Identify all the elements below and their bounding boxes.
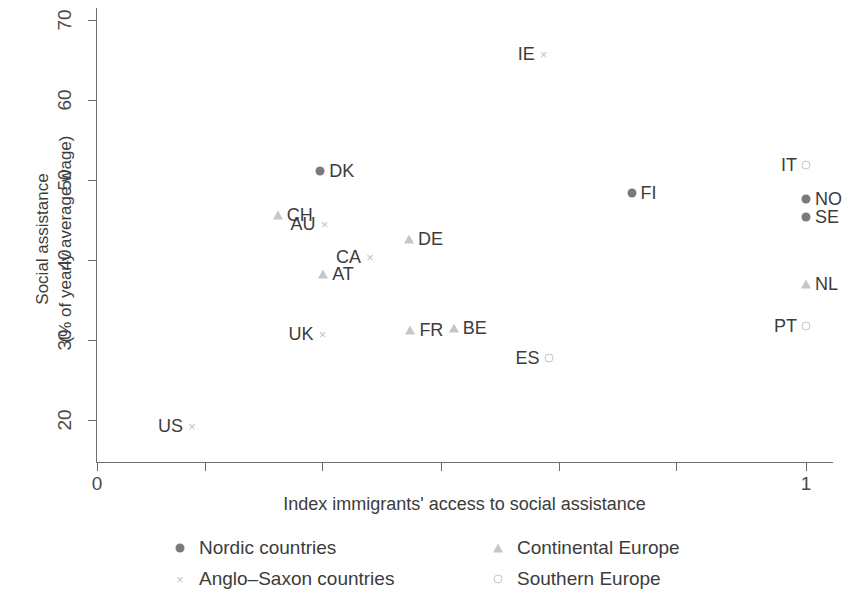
data-point-label: DK bbox=[329, 162, 354, 180]
legend-item[interactable]: ×Anglo–Saxon countries bbox=[172, 563, 394, 594]
y-tick bbox=[88, 180, 96, 181]
x-tick-minor bbox=[322, 463, 323, 471]
triangle-marker-icon bbox=[318, 270, 328, 279]
x-tick-minor bbox=[205, 463, 206, 471]
cross-marker-icon: × bbox=[317, 329, 328, 340]
cross-marker-icon: × bbox=[364, 251, 375, 262]
data-point-label: DE bbox=[418, 230, 443, 248]
triangle-marker-icon bbox=[449, 324, 459, 333]
legend-swatch: × bbox=[172, 571, 188, 587]
legend-item[interactable]: Continental Europe bbox=[490, 532, 680, 563]
y-axis-title-line2: (% of yearly average wage) bbox=[54, 19, 77, 459]
legend-item[interactable]: Southern Europe bbox=[490, 563, 661, 594]
x-tick bbox=[97, 463, 98, 471]
filled-circle-marker-icon bbox=[316, 167, 325, 176]
data-point-label: PT bbox=[774, 317, 797, 335]
legend-label: Anglo–Saxon countries bbox=[199, 568, 394, 590]
triangle-marker-icon bbox=[273, 211, 283, 220]
cross-marker-icon: × bbox=[187, 421, 198, 432]
data-point-label: FI bbox=[641, 184, 657, 202]
legend-swatch bbox=[490, 540, 506, 556]
legend-item[interactable]: Nordic countries bbox=[172, 532, 336, 563]
cross-marker-icon: × bbox=[319, 219, 330, 230]
legend-label: Nordic countries bbox=[199, 537, 336, 559]
triangle-marker-icon bbox=[801, 280, 811, 289]
x-tick-minor bbox=[441, 463, 442, 471]
data-point-label: IT bbox=[781, 156, 797, 174]
data-point-label: IE bbox=[518, 45, 535, 63]
data-point-label: FR bbox=[419, 321, 443, 339]
data-point-label: SE bbox=[815, 208, 839, 226]
data-point-label: US bbox=[158, 417, 183, 435]
y-tick bbox=[88, 420, 96, 421]
legend-label: Continental Europe bbox=[517, 537, 680, 559]
x-tick-label: 1 bbox=[786, 473, 826, 495]
y-tick bbox=[88, 340, 96, 341]
open-circle-marker-icon bbox=[802, 322, 811, 331]
legend-swatch bbox=[490, 571, 506, 587]
y-tick bbox=[88, 260, 96, 261]
filled-circle-marker-icon bbox=[802, 195, 811, 204]
cross-marker-icon: × bbox=[538, 49, 549, 60]
x-tick-label: 0 bbox=[77, 473, 117, 495]
filled-circle-marker-icon bbox=[176, 543, 185, 552]
chart-legend: Nordic countriesContinental Europe×Anglo… bbox=[172, 532, 702, 594]
data-point-label: UK bbox=[288, 325, 313, 343]
x-axis-title: Index immigrants' access to social assis… bbox=[96, 494, 833, 515]
open-circle-marker-icon bbox=[494, 574, 503, 583]
legend-label: Southern Europe bbox=[517, 568, 661, 590]
y-axis-title-line1: Social assistance bbox=[31, 19, 54, 459]
data-point-label: NO bbox=[815, 190, 842, 208]
x-axis-line bbox=[96, 462, 833, 463]
x-tick bbox=[806, 463, 807, 471]
filled-circle-marker-icon bbox=[627, 188, 636, 197]
data-point-label: CH bbox=[287, 206, 313, 224]
y-axis-line bbox=[96, 8, 97, 463]
open-circle-marker-icon bbox=[802, 160, 811, 169]
legend-swatch bbox=[172, 540, 188, 556]
x-tick-minor bbox=[559, 463, 560, 471]
scatter-plot-figure: 203040506070 01 Social assistance (% of … bbox=[0, 0, 842, 597]
open-circle-marker-icon bbox=[544, 353, 553, 362]
data-point-label: CA bbox=[336, 248, 361, 266]
data-point-label: ES bbox=[516, 349, 540, 367]
y-axis-title: Social assistance (% of yearly average w… bbox=[31, 19, 77, 459]
x-tick-minor bbox=[676, 463, 677, 471]
y-tick bbox=[88, 100, 96, 101]
triangle-marker-icon bbox=[493, 543, 503, 552]
filled-circle-marker-icon bbox=[802, 212, 811, 221]
cross-marker-icon: × bbox=[175, 573, 186, 584]
triangle-marker-icon bbox=[404, 235, 414, 244]
data-point-label: BE bbox=[463, 319, 487, 337]
data-point-label: NL bbox=[815, 275, 838, 293]
data-point-label: AT bbox=[332, 265, 354, 283]
y-tick bbox=[88, 20, 96, 21]
triangle-marker-icon bbox=[405, 325, 415, 334]
